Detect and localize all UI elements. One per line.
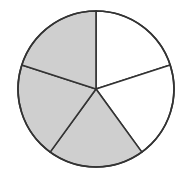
fraction-circle-diagram xyxy=(0,0,179,177)
